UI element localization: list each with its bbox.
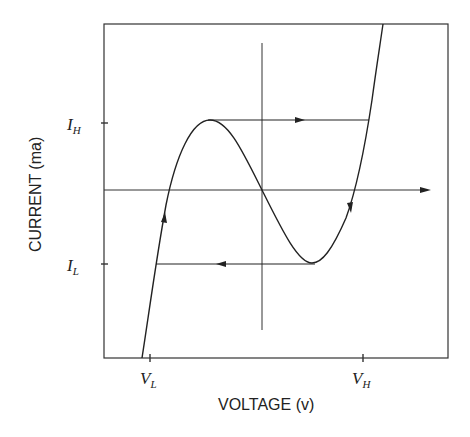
x-axis-title: VOLTAGE (v)	[218, 396, 314, 413]
label-ih: IH	[66, 115, 82, 136]
label-vh: VH	[352, 369, 371, 390]
y-axis-title: CURRENT (ma)	[27, 137, 44, 252]
voltage-axis-arrow-icon	[420, 187, 431, 193]
label-vl: VL	[140, 369, 157, 390]
left-arrow-icon	[216, 261, 226, 267]
iv-hysteresis-diagram: IH IL VL VH VOLTAGE (v) CURRENT (ma)	[0, 0, 470, 437]
label-il: IL	[66, 256, 79, 277]
plot-frame	[104, 24, 448, 358]
right-arrow-icon	[295, 117, 305, 123]
